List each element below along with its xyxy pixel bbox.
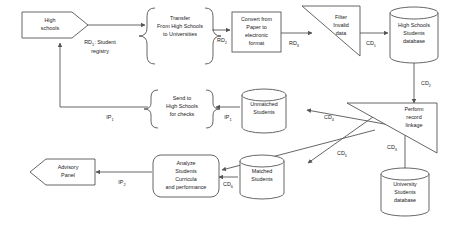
ip1b-sub: 1: [229, 117, 231, 122]
edge-label-ip1-right: IP1: [224, 114, 231, 121]
universitydb-top: [381, 168, 429, 180]
diagram-canvas: High schools Transfer From High Schools …: [0, 0, 463, 231]
filter-label-line1: Filter: [335, 14, 347, 20]
cd1-base: CD: [366, 40, 374, 46]
rd2-base: RD: [217, 37, 225, 43]
hsdb-label-line1: High Schools: [398, 22, 430, 28]
node-high-schools-db[interactable]: High Schools Students database: [390, 7, 438, 63]
edge-label-rd2: RD2: [217, 37, 227, 44]
ip2-sub: 2: [123, 182, 125, 187]
rd1-base: RD: [84, 39, 92, 45]
rd1-line2: registry: [91, 48, 109, 54]
edge-label-cd2: CD2: [421, 80, 431, 87]
cd5-sub: 5: [345, 153, 347, 158]
hsdb-label-line2: Students: [403, 30, 425, 36]
universitydb-label-line3: database: [394, 197, 416, 203]
high-schools-label-line2: schools: [41, 25, 60, 31]
sendchecks-left-brace: [144, 90, 158, 128]
analyze-label-line3: Curricula: [175, 176, 197, 182]
edge-label-ip1-left: IP1: [106, 114, 113, 121]
analyze-label-line2: Students: [175, 168, 197, 174]
unmatched-label-line2: Students: [253, 109, 275, 115]
filter-label-line3: data: [336, 30, 347, 36]
unmatched-label-line1: Unmatched: [250, 101, 278, 107]
node-advisory-panel[interactable]: Advisory Panel: [30, 159, 95, 185]
convert-label-line4: format: [249, 40, 265, 46]
cd4-sub: 4: [332, 117, 335, 122]
advisory-label-line1: Advisory: [58, 164, 79, 170]
convert-label-line1: Convert from: [241, 16, 273, 22]
analyze-label-line4: and performance: [166, 184, 207, 190]
transfer-label-line3: to Universities: [163, 31, 197, 37]
node-high-schools[interactable]: High schools: [22, 12, 88, 38]
cd4-base: CD: [324, 114, 332, 120]
node-analyze-process[interactable]: Analyze Students Curricula and performan…: [153, 155, 219, 197]
matched-top: [240, 155, 284, 167]
cd2-sub: 2: [429, 83, 431, 88]
svg-text:RD1: Student: RD1: Student: [84, 39, 116, 46]
cd3-sub: 3: [395, 147, 397, 152]
transfer-left-brace: [139, 8, 155, 64]
node-transfer-process[interactable]: Transfer From High Schools to Universiti…: [139, 8, 221, 64]
cd3-base: CD: [387, 144, 395, 150]
edge-label-cd5: CD5: [337, 150, 347, 157]
rd1-suffix: : Student: [94, 39, 116, 45]
cd6-sub: 6: [231, 184, 233, 189]
rd3-sub: 3: [297, 43, 299, 48]
node-convert-process[interactable]: Convert from Paper to electronic format: [232, 12, 281, 52]
cd6-base: CD: [223, 181, 231, 187]
convert-label-line2: Paper to: [246, 24, 266, 30]
ip1a-sub: 1: [111, 117, 113, 122]
matched-label-line1: Matched: [252, 168, 273, 174]
edge-label-rd3: RD3: [289, 40, 299, 47]
filter-label-line2: Invalid: [333, 22, 349, 28]
edge-label-cd6: CD6: [223, 181, 233, 188]
linkage-label-line1: Perform: [404, 106, 424, 112]
filter-shape: [302, 6, 360, 56]
hsdb-label-line3: database: [403, 38, 425, 44]
linkage-label-line3: linkage: [405, 122, 422, 128]
rd3-base: RD: [289, 40, 297, 46]
node-unmatched-students-db[interactable]: Unmatched Students: [242, 89, 286, 133]
node-university-db[interactable]: University Students database: [381, 168, 429, 216]
edge-label-cd3: CD3: [387, 144, 397, 151]
transfer-label-line1: Transfer: [170, 15, 190, 21]
analyze-label-line1: Analyze: [176, 160, 195, 166]
cd2-base: CD: [421, 80, 429, 86]
node-filter-process[interactable]: Filter Invalid data: [302, 6, 360, 56]
universitydb-label-line2: Students: [394, 189, 416, 195]
transfer-right-brace: [205, 8, 221, 64]
edge-label-ip2: IP2: [118, 179, 125, 186]
node-send-checks-process[interactable]: Send to High Schools for checks: [144, 90, 220, 128]
edge-label-cd4: CD4: [324, 114, 335, 121]
rd2-sub: 2: [225, 40, 227, 45]
cd1-sub: 1: [374, 43, 376, 48]
advisory-label-line2: Panel: [61, 172, 75, 178]
hsdb-top: [390, 7, 438, 19]
universitydb-label-line1: University: [393, 181, 417, 187]
unmatched-top: [242, 89, 286, 101]
sendchecks-label-line3: for checks: [170, 111, 195, 117]
transfer-label-line2: From High Schools: [157, 23, 203, 29]
sendchecks-right-brace: [206, 90, 220, 128]
linkage-label-line2: record: [406, 114, 421, 120]
edge-label-cd1: CD1: [366, 40, 376, 47]
matched-label-line2: Students: [251, 176, 273, 182]
flowchart-svg: High schools Transfer From High Schools …: [0, 0, 463, 231]
convert-label-line3: electronic: [245, 32, 268, 38]
sendchecks-label-line1: Send to: [173, 95, 192, 101]
cd5-base: CD: [337, 150, 345, 156]
node-matched-students-db[interactable]: Matched Students: [240, 155, 284, 199]
high-schools-label-line1: High: [44, 17, 55, 23]
edge-label-rd1: RD1: Student registry: [84, 39, 116, 54]
sendchecks-label-line2: High Schools: [166, 103, 198, 109]
